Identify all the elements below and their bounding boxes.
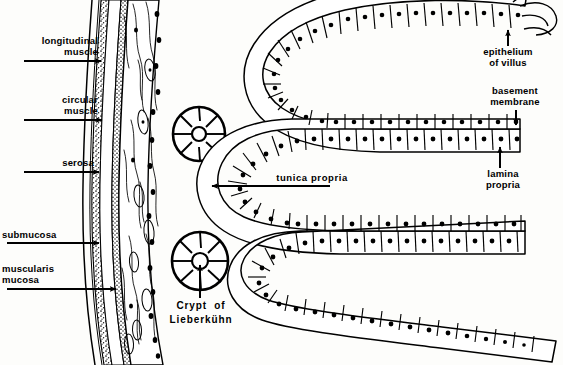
label-serosa: serosa: [2, 158, 94, 169]
histology-figure: longitudinal muscle circular muscle sero…: [0, 0, 563, 365]
label-crypt-of-lieberkuhn: Crypt of Lieberkühn: [146, 299, 256, 326]
label-basement-membrane: basement membrane: [472, 86, 558, 107]
label-submucosa: submucosa: [2, 230, 94, 241]
label-longitudinal-muscle: longitudinal muscle: [2, 36, 98, 57]
label-muscularis-mucosa: muscularis mucosa: [2, 264, 102, 285]
label-epithelium-of-villus: epithelium of villus: [468, 47, 548, 68]
label-circular-muscle: circular muscle: [2, 95, 98, 116]
label-lamina-propria: lamina propria: [468, 169, 538, 190]
label-tunica-propria: tunica propria: [262, 173, 362, 184]
